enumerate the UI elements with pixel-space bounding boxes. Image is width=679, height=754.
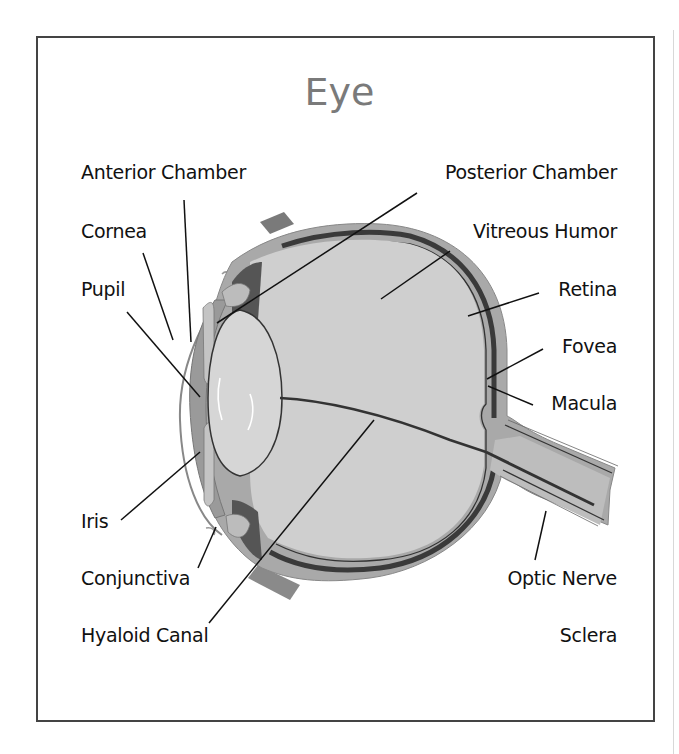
label-retina: Retina xyxy=(558,280,617,299)
label-optic-nerve: Optic Nerve xyxy=(507,569,617,588)
label-posterior-chamber: Posterior Chamber xyxy=(445,163,617,182)
diagram-title: Eye xyxy=(0,70,679,114)
label-sclera: Sclera xyxy=(560,626,617,645)
label-conjunctiva: Conjunctiva xyxy=(81,569,190,588)
label-anterior-chamber: Anterior Chamber xyxy=(81,163,246,182)
upper-muscle-band xyxy=(260,212,294,234)
label-vitreous-humor: Vitreous Humor xyxy=(473,222,617,241)
label-fovea: Fovea xyxy=(562,337,617,356)
label-cornea: Cornea xyxy=(81,222,147,241)
label-pupil: Pupil xyxy=(81,280,125,299)
label-macula: Macula xyxy=(551,394,617,413)
leader-conjunctiva xyxy=(198,527,216,568)
label-hyaloid-canal: Hyaloid Canal xyxy=(81,626,208,645)
leader-anterior-chamber xyxy=(184,200,191,342)
leader-optic-nerve xyxy=(535,511,546,560)
leader-pupil xyxy=(127,312,200,397)
label-iris: Iris xyxy=(81,512,108,531)
leader-iris xyxy=(121,452,200,520)
leader-cornea xyxy=(143,253,173,340)
